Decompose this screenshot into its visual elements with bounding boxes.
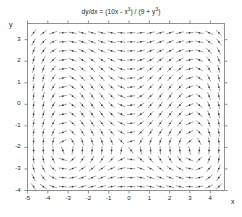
field-sample-dot: [101, 104, 103, 106]
field-sample-dot: [120, 104, 122, 106]
field-sample-dot: [140, 113, 142, 115]
field-sample-dot: [81, 77, 83, 79]
field-sample-dot: [130, 68, 132, 70]
field-sample-dot: [130, 41, 132, 43]
field-sample-dot: [208, 141, 210, 143]
field-sample-dot: [179, 159, 181, 161]
field-sample-dot: [42, 168, 44, 170]
field-sample-dot: [72, 32, 74, 34]
field-sample-dot: [111, 59, 113, 61]
field-sample-dot: [140, 186, 142, 188]
field-sample-dot: [169, 177, 171, 179]
y-tick-label: 1: [7, 79, 21, 85]
field-sample-dot: [101, 186, 103, 188]
field-sample-dot: [218, 177, 220, 179]
field-sample-dot: [208, 168, 210, 170]
field-sample-dot: [189, 113, 191, 115]
field-sample-dot: [52, 104, 54, 106]
field-sample-dot: [140, 177, 142, 179]
field-sample-dot: [198, 104, 200, 106]
field-sample-dot: [120, 32, 122, 34]
x-tick-label: 3: [183, 195, 197, 201]
field-sample-dot: [159, 59, 161, 61]
field-sample-dot: [91, 113, 93, 115]
field-sample-dot: [33, 131, 35, 133]
field-sample-dot: [198, 41, 200, 43]
field-sample-dot: [140, 68, 142, 70]
field-sample-dot: [169, 32, 171, 34]
field-sample-dot: [189, 32, 191, 34]
y-tick-label: -3: [7, 165, 21, 171]
field-sample-dot: [150, 77, 152, 79]
field-sample-dot: [130, 141, 132, 143]
field-sample-dot: [52, 32, 54, 34]
field-sample-dot: [218, 50, 220, 52]
field-sample-dot: [198, 141, 200, 143]
y-tick-label: -2: [7, 143, 21, 149]
field-sample-dot: [169, 113, 171, 115]
field-sample-dot: [120, 177, 122, 179]
field-sample-dot: [169, 141, 171, 143]
field-sample-dot: [189, 50, 191, 52]
field-sample-dot: [111, 41, 113, 43]
field-sample-dot: [130, 95, 132, 97]
field-sample-dot: [140, 86, 142, 88]
field-sample-dot: [208, 186, 210, 188]
field-sample-dot: [159, 122, 161, 124]
field-sample-dot: [101, 41, 103, 43]
field-sample-dot: [189, 41, 191, 43]
field-sample-dot: [52, 131, 54, 133]
field-sample-dot: [150, 59, 152, 61]
field-sample-dot: [179, 168, 181, 170]
field-sample-dot: [72, 104, 74, 106]
field-sample-dot: [208, 95, 210, 97]
x-tick-label: 4: [203, 195, 217, 201]
field-sample-dot: [189, 86, 191, 88]
direction-field-figure: dy/dx = (10x - x3) / (9 + y3) y x 3210-1…: [0, 0, 242, 217]
field-sample-dot: [42, 131, 44, 133]
field-sample-dot: [208, 104, 210, 106]
field-sample-dot: [169, 86, 171, 88]
field-sample-dot: [33, 150, 35, 152]
field-sample-dot: [62, 141, 64, 143]
field-sample-dot: [101, 95, 103, 97]
field-sample-dot: [169, 159, 171, 161]
field-sample-dot: [159, 86, 161, 88]
field-sample-dot: [33, 86, 35, 88]
field-sample-dot: [120, 150, 122, 152]
x-tick-label: 2: [163, 195, 177, 201]
field-sample-dot: [189, 59, 191, 61]
field-sample-dot: [120, 50, 122, 52]
y-tick-label: 2: [7, 57, 21, 63]
field-sample-dot: [150, 95, 152, 97]
field-sample-dot: [91, 68, 93, 70]
field-sample-dot: [33, 77, 35, 79]
field-sample-dot: [91, 122, 93, 124]
field-sample-dot: [81, 50, 83, 52]
field-sample-dot: [101, 77, 103, 79]
field-sample-dot: [150, 122, 152, 124]
field-sample-dot: [52, 77, 54, 79]
field-sample-dot: [198, 77, 200, 79]
field-sample-dot: [52, 50, 54, 52]
field-sample-dot: [81, 159, 83, 161]
field-sample-dot: [62, 168, 64, 170]
y-tick-label: -1: [7, 122, 21, 128]
field-sample-dot: [101, 50, 103, 52]
field-sample-dot: [198, 131, 200, 133]
field-sample-dot: [111, 131, 113, 133]
field-sample-dot: [159, 32, 161, 34]
field-sample-dot: [150, 86, 152, 88]
field-sample-dot: [159, 68, 161, 70]
field-sample-dot: [33, 32, 35, 34]
field-sample-dot: [150, 159, 152, 161]
field-sample-dot: [179, 68, 181, 70]
field-sample-dot: [130, 113, 132, 115]
x-tick-label: -1: [102, 195, 116, 201]
field-sample-dot: [218, 186, 220, 188]
field-sample-dot: [208, 77, 210, 79]
field-sample-dot: [120, 122, 122, 124]
field-sample-dot: [198, 177, 200, 179]
field-sample-dot: [140, 32, 142, 34]
field-sample-dot: [52, 141, 54, 143]
